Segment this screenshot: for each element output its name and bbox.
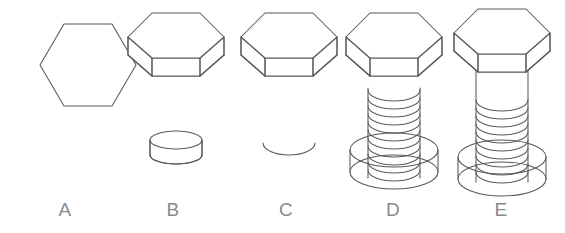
stage-label-a: A [52,200,78,219]
stage-label-b: B [160,200,186,219]
hex-head-front-face [152,58,200,76]
stage-b-group [128,13,224,164]
stage-label-d: D [380,200,406,219]
collar-top-ellipse [350,133,438,167]
collar-top-ellipse [458,140,546,174]
collar-bottom-back-arc [350,155,438,172]
stage-label-c: C [273,200,299,219]
wide-collar [458,140,546,196]
bolt-construction-diagram: A B C D E [0,0,565,233]
hex-head-front-face [478,54,526,72]
collar-body [458,157,546,196]
hexagon-face [40,24,136,106]
lower-arc [263,143,315,155]
collar-bottom-back-arc [458,162,546,179]
hex-head-front-face [370,58,418,76]
stage-e-group [454,9,550,196]
stage-d-group [346,13,442,189]
cylinder-ring-top-ellipse [150,131,202,149]
stage-label-e: E [488,200,514,219]
hex-head-front-face [265,58,313,76]
stage-c-group [241,13,337,155]
stage-a-group [40,24,136,106]
collar-bottom-arc [350,150,438,189]
